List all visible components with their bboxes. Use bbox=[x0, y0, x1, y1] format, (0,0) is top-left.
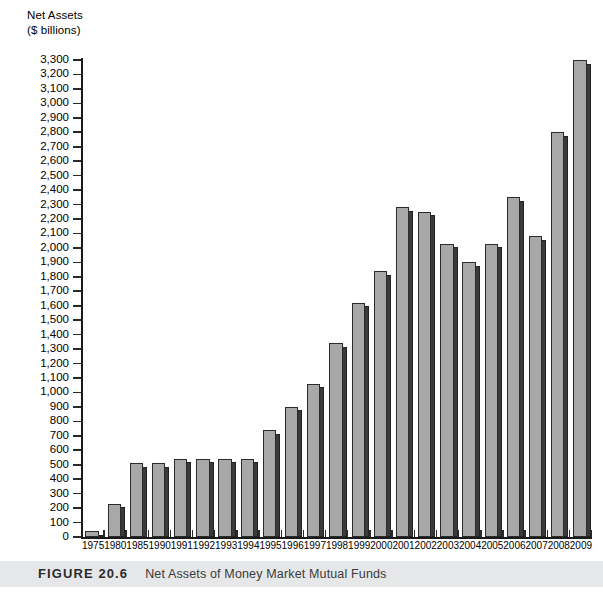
x-label-2006: 2006 bbox=[503, 540, 525, 551]
bar-1990 bbox=[152, 459, 165, 537]
bar-1996 bbox=[285, 403, 298, 537]
plot-area: 3,3003,2003,1003,0002,9002,8002,7002,600… bbox=[0, 0, 603, 552]
x-label-1996: 1996 bbox=[282, 540, 304, 551]
x-label-2001: 2001 bbox=[392, 540, 414, 551]
bar-face bbox=[352, 303, 365, 537]
bar-face bbox=[285, 407, 298, 537]
x-tick bbox=[325, 530, 326, 537]
x-label-1993: 1993 bbox=[215, 540, 237, 551]
bar-1975 bbox=[85, 527, 98, 537]
x-tick bbox=[436, 530, 437, 537]
x-label-2005: 2005 bbox=[481, 540, 503, 551]
x-tick bbox=[214, 530, 215, 537]
bar-1992 bbox=[196, 455, 209, 537]
x-tick bbox=[480, 530, 481, 537]
x-label-1975: 1975 bbox=[82, 540, 104, 551]
bar-face bbox=[329, 343, 342, 537]
figure-caption-text: Net Assets of Money Market Mutual Funds bbox=[145, 567, 386, 581]
x-label-2004: 2004 bbox=[459, 540, 481, 551]
x-label-2002: 2002 bbox=[415, 540, 437, 551]
x-label-1990: 1990 bbox=[149, 540, 171, 551]
bar-1980 bbox=[108, 500, 121, 537]
bar-2006 bbox=[507, 193, 520, 537]
bar-2008 bbox=[551, 128, 564, 537]
x-tick bbox=[547, 530, 548, 537]
x-label-1991: 1991 bbox=[171, 540, 193, 551]
x-tick bbox=[192, 530, 193, 537]
bar-2005 bbox=[485, 240, 498, 537]
bar-face bbox=[485, 244, 498, 537]
x-tick bbox=[591, 530, 592, 537]
bar-face bbox=[307, 384, 320, 537]
bar-1994 bbox=[241, 455, 254, 537]
x-tick bbox=[347, 530, 348, 537]
bar-face bbox=[108, 504, 121, 537]
bar-face bbox=[418, 212, 431, 537]
bar-2002 bbox=[418, 208, 431, 537]
bar-face bbox=[396, 207, 409, 537]
bar-face bbox=[85, 531, 98, 537]
bar-face bbox=[507, 197, 520, 537]
x-tick bbox=[281, 530, 282, 537]
x-tick bbox=[148, 530, 149, 537]
bar-2009 bbox=[573, 56, 586, 537]
x-tick bbox=[569, 530, 570, 537]
x-label-2007: 2007 bbox=[525, 540, 547, 551]
bar-2004 bbox=[462, 258, 475, 537]
bar-face bbox=[529, 236, 542, 537]
bar-2003 bbox=[440, 240, 453, 537]
bar-1995 bbox=[263, 426, 276, 537]
x-label-1985: 1985 bbox=[126, 540, 148, 551]
x-label-1980: 1980 bbox=[104, 540, 126, 551]
x-label-2008: 2008 bbox=[548, 540, 570, 551]
x-tick bbox=[303, 530, 304, 537]
bar-face bbox=[263, 430, 276, 537]
bar-face bbox=[551, 132, 564, 537]
bar-face bbox=[174, 459, 187, 537]
bar-face bbox=[196, 459, 209, 537]
bar-face bbox=[573, 60, 586, 537]
x-tick bbox=[414, 530, 415, 537]
bar-series bbox=[0, 0, 603, 552]
bar-face bbox=[374, 271, 387, 537]
bar-1991 bbox=[174, 455, 187, 537]
bar-1997 bbox=[307, 380, 320, 537]
x-tick bbox=[125, 530, 126, 537]
x-tick bbox=[236, 530, 237, 537]
x-label-1998: 1998 bbox=[326, 540, 348, 551]
x-tick bbox=[458, 530, 459, 537]
bar-face bbox=[218, 459, 231, 537]
x-tick bbox=[391, 530, 392, 537]
x-label-1995: 1995 bbox=[259, 540, 281, 551]
x-label-2003: 2003 bbox=[437, 540, 459, 551]
x-tick bbox=[103, 530, 104, 537]
bar-2000 bbox=[374, 267, 387, 537]
bar-1998 bbox=[329, 339, 342, 537]
x-label-1999: 1999 bbox=[348, 540, 370, 551]
bar-2001 bbox=[396, 203, 409, 537]
x-label-2000: 2000 bbox=[370, 540, 392, 551]
bar-face bbox=[440, 244, 453, 537]
bar-face bbox=[152, 463, 165, 537]
bar-face bbox=[241, 459, 254, 537]
figure-container: Net Assets ($ billions) 3,3003,2003,1003… bbox=[0, 0, 603, 597]
bar-1985 bbox=[130, 459, 143, 537]
bar-face bbox=[462, 262, 475, 537]
x-tick bbox=[369, 530, 370, 537]
x-tick bbox=[524, 530, 525, 537]
x-tick bbox=[170, 530, 171, 537]
bar-1993 bbox=[218, 455, 231, 537]
bar-1999 bbox=[352, 299, 365, 537]
bar-2007 bbox=[529, 232, 542, 537]
x-label-2009: 2009 bbox=[570, 540, 592, 551]
x-label-1997: 1997 bbox=[304, 540, 326, 551]
x-tick bbox=[258, 530, 259, 537]
bar-face bbox=[130, 463, 143, 537]
figure-number: FIGURE 20.6 bbox=[38, 566, 128, 581]
x-tick bbox=[502, 530, 503, 537]
x-label-1994: 1994 bbox=[237, 540, 259, 551]
x-label-1992: 1992 bbox=[193, 540, 215, 551]
caption: FIGURE 20.6 Net Assets of Money Market M… bbox=[38, 566, 387, 581]
